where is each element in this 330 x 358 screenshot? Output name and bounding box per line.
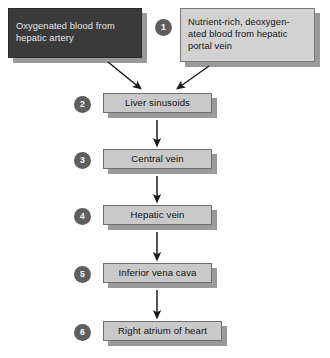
arrow-layer — [0, 0, 330, 358]
hepatic-blood-flow-diagram: Oxygenated blood from hepatic artery 1 N… — [0, 0, 330, 358]
arrow-portal-vein-to-sinusoids — [178, 66, 209, 88]
arrow-oxygenated-to-sinusoids — [108, 62, 140, 88]
